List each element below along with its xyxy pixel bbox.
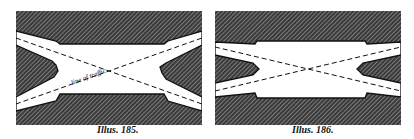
figure-185: line of traffic (16, 11, 202, 125)
caption-185: Illus. 185. (97, 124, 138, 135)
caption-186: Illus. 186. (292, 124, 333, 135)
road-crossing-diagram-186 (215, 11, 401, 125)
road-crossing-diagram-185: line of traffic (16, 11, 202, 125)
figure-186 (215, 11, 401, 125)
